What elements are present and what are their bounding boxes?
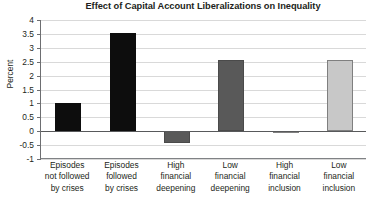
y-axis-tick-label: 3.5 (22, 30, 34, 38)
y-axis-tick-label: 2.5 (22, 57, 34, 65)
x-axis-category-label: Highfinancialdeepening (149, 160, 203, 194)
x-axis-category-labels: Episodesnot followedby crisesEpisodesfol… (40, 160, 366, 199)
bar (110, 33, 136, 132)
plot-area (40, 20, 366, 159)
y-axis-tick-labels: -1-0.500.511.522.533.54 (0, 20, 40, 159)
y-axis-tick-label: 3 (29, 44, 34, 52)
x-axis-category-label: Episodesfollowedby crises (94, 160, 148, 194)
bar (218, 60, 244, 131)
chart-container: Effect of Capital Account Liberalization… (0, 0, 370, 199)
x-axis-category-label: Episodesnot followedby crises (40, 160, 94, 194)
bar (327, 60, 353, 131)
x-axis-category-label: Lowfinancialdeepening (203, 160, 257, 194)
x-axis-category-label: Highfinancialinclusion (257, 160, 311, 194)
y-axis-tick-label: -0.5 (20, 141, 34, 149)
y-axis-tick-label: 1.5 (22, 85, 34, 93)
y-axis-tick-label: 0 (29, 127, 34, 135)
bar (55, 103, 81, 131)
bar-series (41, 20, 366, 158)
bar (164, 131, 190, 143)
y-axis-tick-label: 4 (29, 16, 34, 24)
y-axis-tick-label: -1 (27, 155, 34, 163)
y-axis-tick-label: 0.5 (22, 113, 34, 121)
x-axis-category-label: Lowfinancialinclusion (312, 160, 366, 194)
chart-title: Effect of Capital Account Liberalization… (40, 1, 366, 12)
y-axis-tick-label: 1 (29, 99, 34, 107)
zero-axis-line (41, 131, 366, 132)
y-axis-tick-label: 2 (29, 71, 34, 79)
